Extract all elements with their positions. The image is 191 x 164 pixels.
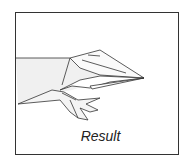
caption: Result: [0, 128, 191, 144]
